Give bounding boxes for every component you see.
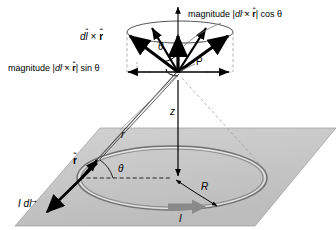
label-radius-r: R xyxy=(201,182,208,192)
label-cross-times: × xyxy=(91,31,97,42)
label-ce-l: l→ xyxy=(29,199,31,209)
cone-rim-front-dashed xyxy=(127,32,233,43)
label-cross-r-hat-accent: ˆ xyxy=(99,28,103,37)
label-sin-l: l→ xyxy=(60,64,62,73)
label-r-hat-accent: ˆ xyxy=(73,152,77,161)
label-cos-prefix: magnitude | xyxy=(188,9,235,19)
label-ce-l-vector-accent: → xyxy=(29,196,31,205)
label-theta-plane: θ xyxy=(118,164,123,174)
label-cross-l-hat-accent: ˆ xyxy=(86,28,88,37)
label-sin-suffix: | sin xyxy=(76,63,95,73)
label-sin-magnitude: magnitude |dl→ × rˆ| sin θ xyxy=(8,64,100,73)
label-cos-l: l→ xyxy=(240,10,242,19)
label-point-p: P xyxy=(196,57,203,67)
label-ce-i: I xyxy=(18,198,21,209)
label-current-element: I dl→ xyxy=(18,199,31,209)
label-r-distance: r xyxy=(121,130,124,140)
label-cos-theta: θ xyxy=(277,9,282,19)
label-z-axis: z xyxy=(170,107,175,117)
figure-canvas: magnitude |dl→ × rˆ| cos θ magnitude |dl… xyxy=(0,0,336,230)
vector-cone-back-left xyxy=(152,28,178,72)
leader-apex-down-left xyxy=(120,76,176,130)
label-cos-l-vector-accent: → xyxy=(240,8,242,16)
label-current-i: I xyxy=(179,214,182,224)
label-r-hat: rˆ xyxy=(73,156,77,166)
label-sin-r: rˆ xyxy=(72,64,76,73)
label-cross-product: dlˆ × rˆ xyxy=(80,32,103,42)
label-sin-r-hat-accent: ˆ xyxy=(72,61,76,69)
label-sin-prefix: magnitude | xyxy=(8,63,55,73)
diagram-svg xyxy=(0,0,336,230)
label-cos-r-hat-accent: ˆ xyxy=(252,7,256,15)
label-cos-suffix: | cos xyxy=(256,9,277,19)
label-sin-theta: θ xyxy=(95,63,100,73)
label-sin-l-vector-accent: → xyxy=(60,62,62,70)
label-cross-r: rˆ xyxy=(99,32,103,42)
label-theta-apex: θ xyxy=(158,42,163,52)
label-cos-magnitude: magnitude |dl→ × rˆ| cos θ xyxy=(188,10,282,19)
vector-cone-right xyxy=(178,36,228,72)
loop-plane xyxy=(15,128,336,226)
label-cos-r: rˆ xyxy=(252,10,256,19)
label-cross-l: lˆ xyxy=(86,32,88,42)
